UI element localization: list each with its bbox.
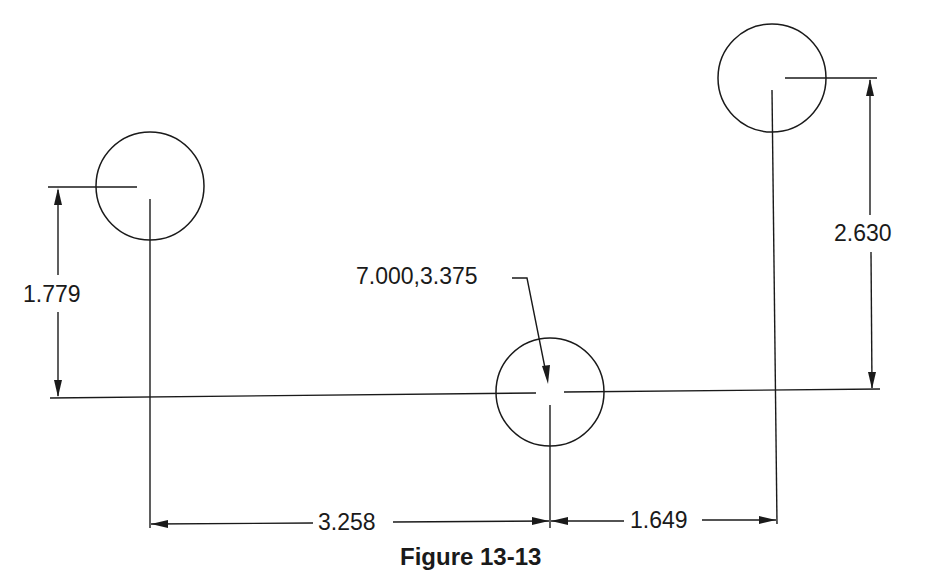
bottom-left-dim-arrow-right xyxy=(532,517,549,525)
right-vertical-dim-line-lower xyxy=(871,252,872,388)
left-dim-arrow-up xyxy=(54,188,62,205)
figure-caption: Figure 13-13 xyxy=(400,545,541,569)
left-dim-arrow-down xyxy=(54,380,62,397)
left-vertical-dimension-label: 1.779 xyxy=(21,283,83,306)
bottom-left-dim-arrow-left xyxy=(151,520,168,528)
right-dim-arrow-up xyxy=(866,79,874,96)
bottom-right-dim-arrow-right xyxy=(759,516,776,524)
bottom-left-dimension-label: 3.258 xyxy=(316,511,378,534)
bottom-right-dimension-label: 1.649 xyxy=(628,509,690,532)
bottom-left-dim-line-a xyxy=(151,523,313,524)
baseline-right-segment xyxy=(564,389,880,392)
origin-leader-arrow xyxy=(542,365,550,384)
origin-leader-line xyxy=(512,278,547,378)
right-vertical-dimension-label: 2.630 xyxy=(832,222,894,245)
bottom-left-dim-line-b xyxy=(393,521,549,522)
right-hole-vertical-extension xyxy=(772,90,777,524)
bottom-right-dim-arrow-left xyxy=(551,517,568,525)
baseline-left-segment xyxy=(50,393,536,398)
origin-coordinate-label: 7.000,3.375 xyxy=(354,265,480,288)
right-dim-arrow-down xyxy=(868,372,876,389)
